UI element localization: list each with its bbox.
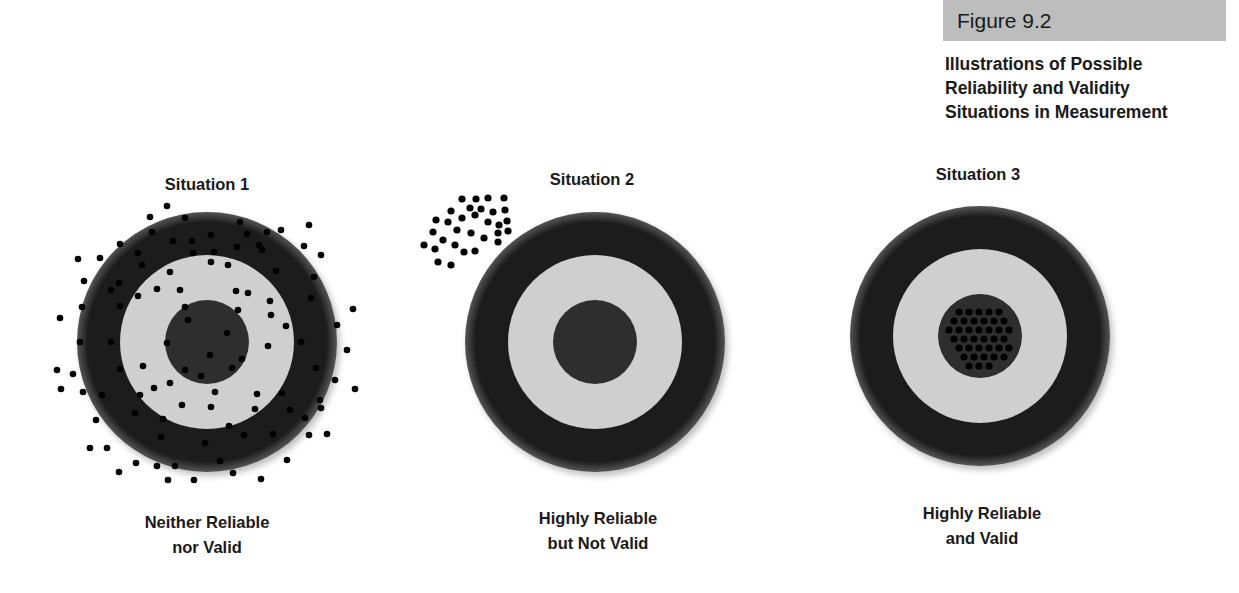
bullseye — [553, 300, 637, 384]
caption-line: Highly Reliable — [882, 501, 1082, 526]
situation-3-caption: Highly Reliable and Valid — [882, 501, 1082, 551]
target-3 — [850, 206, 1110, 466]
target-1 — [54, 203, 359, 484]
situation-2-caption: Highly Reliable but Not Valid — [498, 506, 698, 556]
caption-line: nor Valid — [107, 535, 307, 560]
caption-line: and Valid — [882, 526, 1082, 551]
situation-1-caption: Neither Reliable nor Valid — [107, 510, 307, 560]
caption-line: Highly Reliable — [498, 506, 698, 531]
caption-line: but Not Valid — [498, 531, 698, 556]
target-2 — [420, 194, 725, 472]
caption-line: Neither Reliable — [107, 510, 307, 535]
